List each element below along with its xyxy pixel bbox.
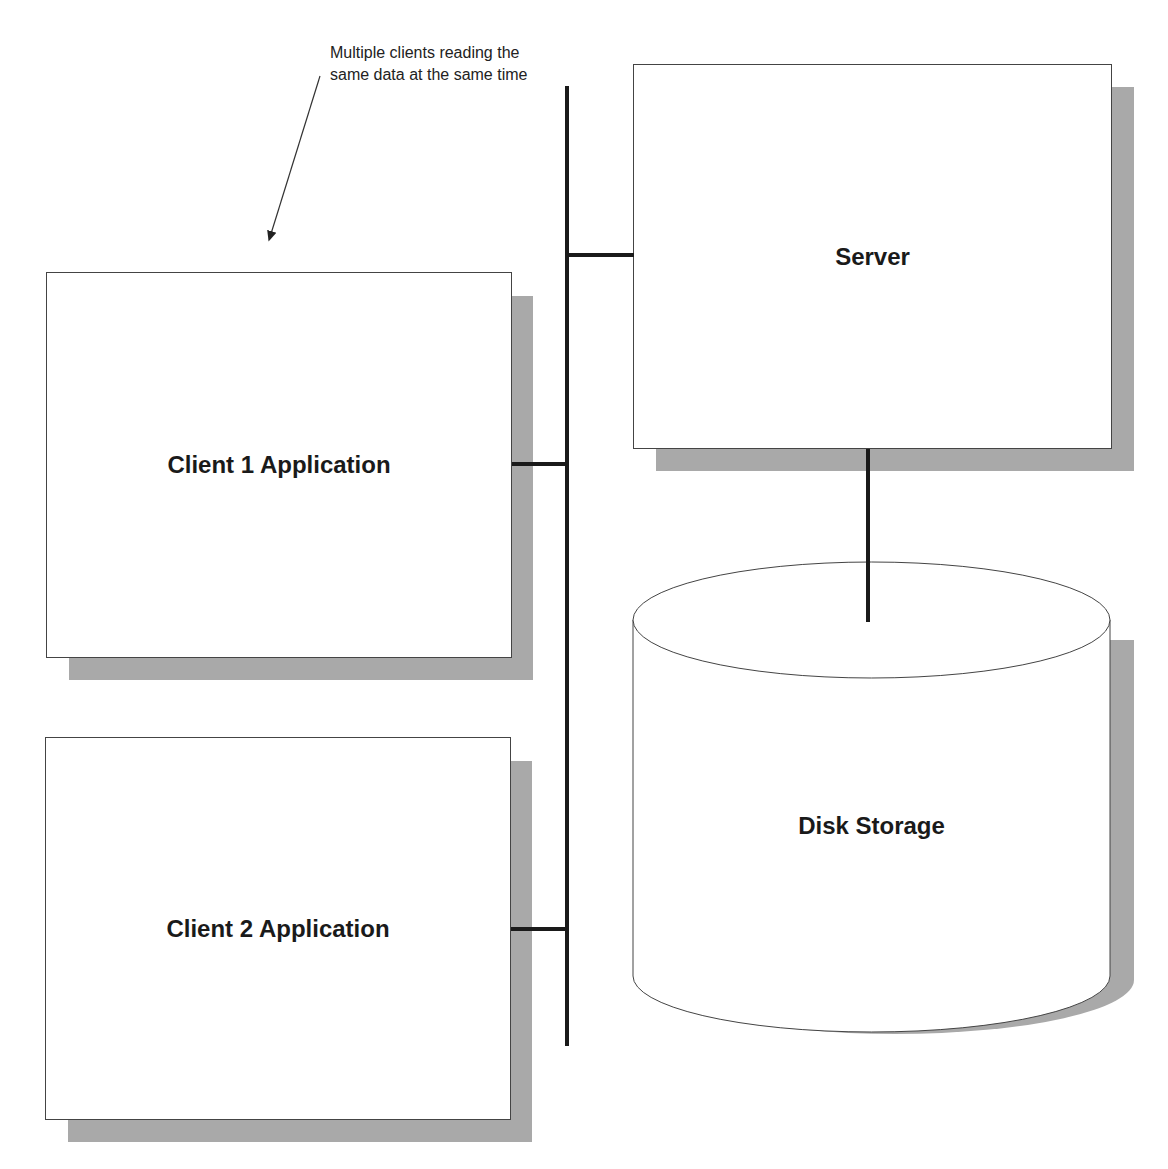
diagram-canvas: Multiple clients reading the same data a… (0, 0, 1168, 1169)
server-bus-connector (567, 253, 634, 257)
network-bus-line (565, 86, 569, 1046)
server-disk-connector (866, 449, 870, 622)
client2-bus-connector (511, 927, 567, 931)
disk-storage-label: Disk Storage (633, 812, 1110, 840)
disk-storage-node[interactable] (0, 0, 1168, 1169)
client1-bus-connector (512, 462, 567, 466)
